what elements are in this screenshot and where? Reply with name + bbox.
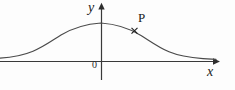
point-p-label: P [138,11,145,24]
y-axis-label: y [88,1,94,15]
bell-curve-figure: y x 0 P [0,0,235,90]
bell-curve [0,23,216,59]
x-axis [0,58,220,65]
y-axis-arrowhead-icon [98,3,104,10]
origin-label: 0 [92,60,97,70]
x-axis-label: x [207,65,213,79]
y-axis [98,3,104,80]
coordinate-plot-svg [0,0,235,90]
